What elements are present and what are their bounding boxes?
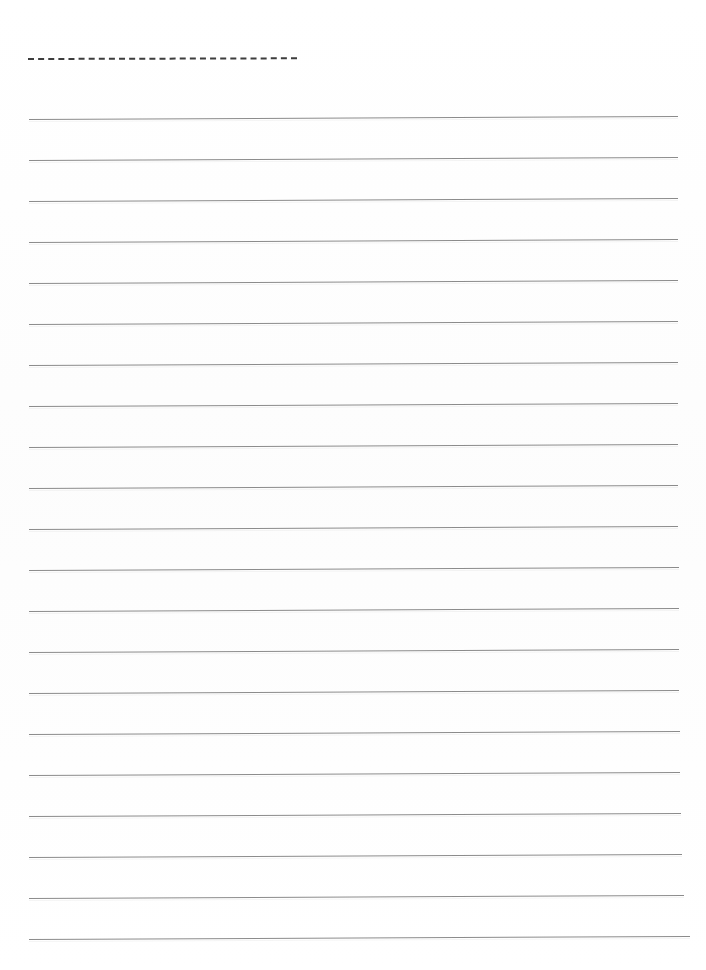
- ruled-line: [29, 403, 678, 407]
- ruled-line: [29, 157, 678, 161]
- ruled-line: [29, 362, 678, 366]
- ruled-line: [29, 895, 684, 899]
- ruled-line: [29, 485, 678, 489]
- ruled-line: [29, 526, 678, 530]
- ruled-line: [29, 690, 679, 694]
- ruled-line: [29, 239, 678, 243]
- ruled-line: [29, 731, 680, 735]
- ruled-line: [29, 116, 678, 120]
- ruled-line: [29, 772, 680, 776]
- ruled-line: [29, 321, 678, 325]
- ruled-line: [29, 608, 679, 612]
- ruled-line: [29, 936, 690, 940]
- ruled-line: [29, 649, 679, 653]
- paper-texture-overlay: [0, 0, 706, 970]
- dashed-header-rule-line: [28, 57, 297, 60]
- ruled-line: [29, 280, 678, 284]
- ruled-line: [29, 198, 678, 202]
- lined-paper-page: [0, 0, 706, 970]
- ruled-line: [29, 444, 678, 448]
- ruled-line: [29, 854, 682, 858]
- ruled-line: [29, 813, 681, 817]
- ruled-line: [29, 567, 679, 571]
